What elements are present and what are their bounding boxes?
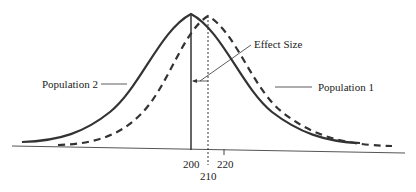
tick-label-200: 200 bbox=[183, 158, 200, 170]
effect-size-label: Effect Size bbox=[254, 38, 302, 50]
arrowhead-icon bbox=[192, 79, 197, 83]
effect-size-diagram: Effect Size Population 2 Population 1 20… bbox=[0, 0, 416, 192]
tick-label-220: 220 bbox=[217, 158, 234, 170]
tick-label-210: 210 bbox=[200, 170, 217, 182]
population-1-label: Population 1 bbox=[318, 81, 374, 93]
population-2-label: Population 2 bbox=[42, 78, 98, 90]
